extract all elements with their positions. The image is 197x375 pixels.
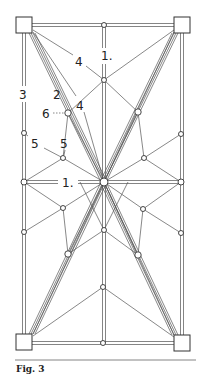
node-bottom-center	[101, 341, 106, 346]
node-left-edge-upper	[22, 131, 27, 136]
structural-diagram: 1. 4 3 2 4 6 5 5 1. Fig. 3	[0, 0, 197, 375]
node-left-edge-lower	[22, 230, 27, 235]
node-right-edge-upper	[179, 132, 184, 137]
node-top-center	[102, 23, 107, 28]
label-three: 3	[19, 88, 27, 102]
corner-bottom-right	[174, 335, 190, 351]
figure-caption: Fig. 3	[16, 364, 45, 374]
label-two: 2	[53, 88, 61, 102]
node-upper-hub	[102, 78, 107, 83]
label-top-one: 1.	[101, 49, 112, 63]
label-four-lower: 4	[76, 99, 84, 113]
node-center	[100, 178, 108, 186]
node-right-mid	[178, 179, 184, 185]
node-inner-lower-right	[141, 207, 146, 212]
node-right-edge-lower	[179, 231, 184, 236]
label-five-left: 5	[31, 137, 39, 151]
node-inner-lower-left	[61, 206, 66, 211]
node-left-mid	[21, 179, 27, 185]
label-one-mid: 1.	[62, 176, 73, 190]
node-inner-upper-left	[61, 156, 66, 161]
corner-top-right	[174, 17, 190, 33]
label-four-upper: 4	[75, 55, 83, 69]
node-6	[65, 110, 71, 116]
node-lower-right	[135, 252, 141, 258]
node-lower-hub	[101, 285, 106, 290]
node-lower-left	[65, 251, 71, 257]
node-inner-upper-right	[142, 156, 147, 161]
corner-top-left	[16, 17, 32, 33]
corner-bottom-left	[16, 334, 32, 350]
label-five-right: 5	[60, 137, 68, 151]
node-upper-right	[135, 109, 141, 115]
label-six: 6	[42, 107, 50, 121]
node-center-lower	[102, 228, 107, 233]
